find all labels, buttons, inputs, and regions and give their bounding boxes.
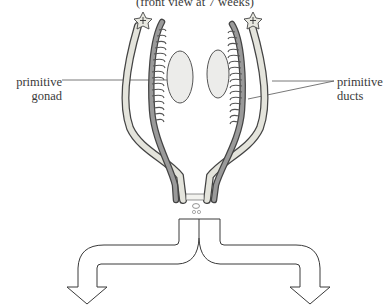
left-gonad [167,51,193,103]
diagram-illustration [0,0,390,306]
opening-dot-left [192,210,195,213]
right-fimbria-star-icon [244,12,262,29]
diagram-stage: (front view at 7 weeks) primitive gonad … [0,0,390,306]
branch-arrows [67,219,330,304]
opening-dot-right [197,210,200,213]
opening-oval [193,204,200,209]
right-gonad [207,50,229,98]
left-inner-duct [151,22,176,200]
urogenital-sinus [186,194,204,200]
